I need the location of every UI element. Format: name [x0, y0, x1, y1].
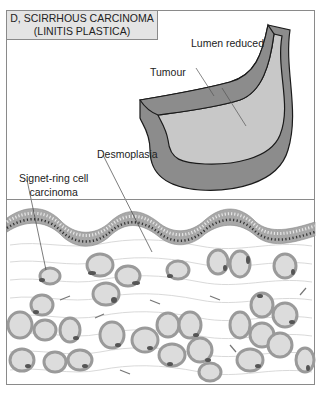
- label-signet-ring-cell-carcinoma: Signet-ring cell carcinoma: [19, 171, 88, 199]
- label-tumour: Tumour: [150, 66, 186, 79]
- label-signet-line-2: carcinoma: [19, 185, 88, 199]
- label-desmoplasia: Desmoplasia: [97, 148, 158, 161]
- panel-divider: [6, 199, 315, 200]
- title-line-1: D, SCIRRHOUS CARCINOMA: [7, 12, 157, 25]
- label-signet-line-1: Signet-ring cell: [19, 171, 88, 185]
- title-line-2: (LINITIS PLASTICA): [7, 25, 157, 38]
- figure-title: D, SCIRRHOUS CARCINOMA (LINITIS PLASTICA…: [6, 10, 158, 40]
- label-lumen-reduced: Lumen reduced: [191, 37, 264, 50]
